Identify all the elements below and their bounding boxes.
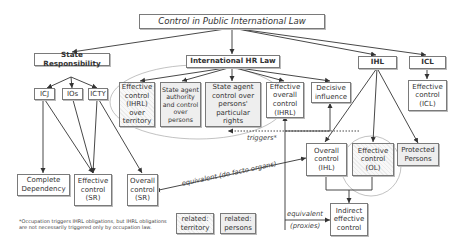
label-line: Effective [78, 177, 109, 186]
effective-control-sr-label: Effectivecontrol(SR) [78, 177, 109, 203]
label-line: Dependency [21, 185, 65, 194]
decisive-influence-node: Decisiveinfluence [311, 82, 351, 103]
label-line: Overall [130, 177, 155, 186]
label-line: control [334, 224, 364, 233]
complete-dependency-node: CompleteDependency [17, 174, 70, 196]
label-line: Indirect [334, 207, 364, 216]
edge-icty-ecsr [93, 100, 97, 173]
label-line: control over [212, 92, 254, 101]
label-line: effective [334, 215, 364, 224]
ios-node: IOs [62, 88, 83, 100]
icl-node: ICL [409, 56, 446, 69]
label-line: influence [315, 93, 347, 102]
legend-territory-label: related:territory [181, 215, 210, 232]
label-line: control [122, 92, 153, 101]
edge-ihrl-territory [140, 67, 232, 81]
ihr-law-node: International HR Law [186, 55, 280, 68]
label-line: (IHL) [314, 164, 339, 173]
label-line: (ICL) [412, 100, 443, 109]
icj-node: ICJ [34, 88, 55, 100]
label-line: Effective [122, 83, 153, 92]
label-line: control [270, 100, 301, 109]
effective-overall-control-label: Effectiveoverallcontrol(IHRL) [270, 83, 301, 117]
label-line: (IHRL) [270, 109, 301, 118]
decisive-influence-label: Decisiveinfluence [315, 84, 347, 101]
edge-ihrl-authority [182, 67, 232, 81]
indirect-effective-control-node: Indirecteffectivecontrol [330, 203, 368, 236]
indirect-effective-control-label: Indirecteffectivecontrol [334, 207, 364, 233]
proxies-label: (proxies) [290, 222, 320, 230]
label-line: Effective [358, 147, 389, 156]
edge-ihrl-eoc [232, 67, 284, 81]
footnote: *Occupation triggers IHRL obligations, b… [19, 218, 179, 231]
ihl-node: IHL [358, 56, 397, 69]
edge-oc-indirect [326, 176, 372, 190]
legend-persons-label: related:persons [224, 215, 252, 232]
edge-title-ihl [232, 28, 376, 55]
label-line: related: [181, 215, 210, 224]
footnote-line-2: are not necessarily triggered only by oc… [19, 224, 179, 230]
label-line: (OL) [358, 164, 389, 173]
edge-title-icl [232, 28, 426, 55]
edge-ihrl-decisive [232, 67, 330, 81]
label-line: control [358, 155, 389, 164]
edge-ios-ecsr [73, 100, 93, 173]
label-line: control [130, 186, 155, 195]
label-line: overall [270, 91, 301, 100]
icty-node: ICTY [88, 88, 108, 100]
label-line: control [412, 91, 443, 100]
edge-ihl-oc [325, 68, 377, 142]
complete-dependency-label: CompleteDependency [21, 176, 65, 193]
label-line: and control [162, 101, 199, 109]
legend-related-territory: related:territory [176, 213, 214, 234]
label-line: over [162, 108, 199, 116]
effective-control-sr-node: Effectivecontrol(SR) [74, 174, 112, 206]
state-responsibility-node: State Responsibility [34, 53, 110, 66]
effective-control-icl-node: Effectivecontrol(ICL) [408, 80, 447, 111]
edge-sr-ios [71, 77, 72, 88]
legend-related-persons: related:persons [220, 213, 256, 234]
state-agent-authority-label: State agentauthorityand controloverperso… [162, 86, 199, 124]
label-line: persons [224, 224, 252, 233]
label-line: control [78, 186, 109, 195]
protected-persons-node: ProtectedPersons [397, 143, 439, 166]
effective-control-territory-label: Effectivecontrol(IHRL)overterritory [122, 83, 153, 126]
label-line: Effective [270, 83, 301, 92]
effective-control-territory-node: Effectivecontrol(IHRL)overterritory [119, 82, 155, 127]
effective-control-ol-node: Effectivecontrol(OL) [352, 143, 394, 176]
edge-sr-icj [47, 77, 71, 88]
edge-icj-ecsr [45, 100, 93, 173]
state-agent-rights-node: State agentcontrol overpersons'particula… [205, 82, 261, 127]
overall-control-sr-label: Overallcontrol(SR) [130, 177, 155, 203]
overall-control-ihl-node: Overallcontrol(IHL) [306, 143, 347, 176]
page-title: Control in Public International Law [139, 14, 325, 29]
label-line: State agent [212, 83, 254, 92]
label-line: Decisive [315, 84, 347, 93]
effective-overall-control-node: Effectiveoverallcontrol(IHRL) [266, 82, 304, 118]
label-line: (SR) [78, 194, 109, 203]
state-agent-authority-node: State agentauthorityand controloverperso… [160, 82, 201, 127]
overall-control-ihl-label: Overallcontrol(IHL) [314, 147, 339, 173]
label-line: Complete [21, 176, 65, 185]
label-line: territory [181, 224, 210, 233]
label-line: Effective [412, 83, 443, 92]
edge-ihl-ol [373, 68, 377, 142]
protected-persons-label: ProtectedPersons [401, 146, 435, 163]
overall-control-sr-node: Overallcontrol(SR) [127, 174, 158, 206]
label-line: (IHRL) [122, 100, 153, 109]
edge-sr-icty [71, 77, 97, 88]
label-line: State agent [162, 86, 199, 94]
label-line: Overall [314, 147, 339, 156]
effective-control-icl-label: Effectivecontrol(ICL) [412, 83, 443, 109]
effective-control-ol-label: Effectivecontrol(OL) [358, 147, 389, 173]
label-line: authority [162, 93, 199, 101]
label-line: control [314, 155, 339, 164]
label-line: (SR) [130, 194, 155, 203]
label-line: Persons [401, 155, 435, 164]
label-line: related: [224, 215, 252, 224]
label-line: territory [122, 117, 153, 126]
label-line: over [122, 109, 153, 118]
label-line: Protected [401, 146, 435, 155]
edge-title-sr [72, 28, 232, 52]
triggers-label: triggers* [247, 134, 277, 142]
